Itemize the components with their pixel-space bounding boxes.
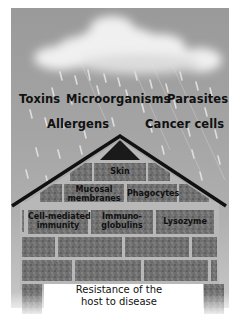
skin-label: Skin [110, 167, 130, 176]
defense-skin: Skin [104, 167, 136, 176]
mucosal-line1: Mucosal [64, 185, 124, 194]
defense-phagocytes: Phagocytes [127, 189, 177, 198]
defense-cell-mediated-immunity: Cell-mediated immunity [28, 212, 88, 230]
defense-lysozyme: Lysozyme [156, 217, 214, 226]
house-diagram [0, 0, 238, 317]
lysozyme-label: Lysozyme [163, 217, 207, 226]
mucosal-line2: membranes [64, 194, 124, 203]
caption: Resistance of the host to disease [60, 284, 178, 308]
immuno-line1: Immuno- [91, 212, 153, 221]
phagocytes-label: Phagocytes [127, 189, 179, 198]
immuno-line2: globulins [91, 221, 153, 230]
caption-line2: host to disease [60, 296, 178, 308]
defense-immunoglobulins: Immuno- globulins [91, 212, 153, 230]
cell-mediated-line2: immunity [28, 221, 88, 230]
cell-mediated-line1: Cell-mediated [28, 212, 88, 221]
defense-mucosal-membranes: Mucosal membranes [64, 185, 124, 203]
caption-line1: Resistance of the [60, 284, 178, 296]
